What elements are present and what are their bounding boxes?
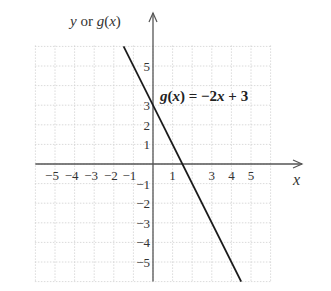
x-tick-label: 3 (209, 168, 216, 183)
y-tick-label: −1 (136, 177, 150, 192)
x-tick-label: 1 (169, 168, 176, 183)
y-tick-label: 3 (144, 98, 151, 113)
y-tick-label: −5 (136, 255, 150, 270)
x-axis-label: x (292, 171, 300, 188)
y-tick-label: −4 (136, 235, 150, 250)
x-tick-label: −5 (45, 168, 59, 183)
equation-label: g(x) = −2x + 3 (159, 88, 248, 105)
y-tick-label: −2 (136, 196, 150, 211)
y-tick-label: 1 (144, 137, 151, 152)
x-tick-label: −4 (65, 168, 79, 183)
y-axis-label: y or g(x) (68, 13, 121, 30)
axes (35, 13, 302, 282)
y-tick-label: 5 (144, 59, 151, 74)
x-tick-label: −2 (104, 168, 118, 183)
y-tick-label: −3 (136, 216, 150, 231)
x-tick-label: −1 (122, 168, 136, 183)
function-graph: −5−4−3−2−113455321−1−2−3−4−5 y or g(x) x… (0, 0, 331, 291)
x-tick-label: 5 (248, 168, 255, 183)
x-tick-label: 4 (228, 168, 235, 183)
x-tick-label: −3 (84, 168, 98, 183)
y-tick-label: 2 (144, 118, 151, 133)
